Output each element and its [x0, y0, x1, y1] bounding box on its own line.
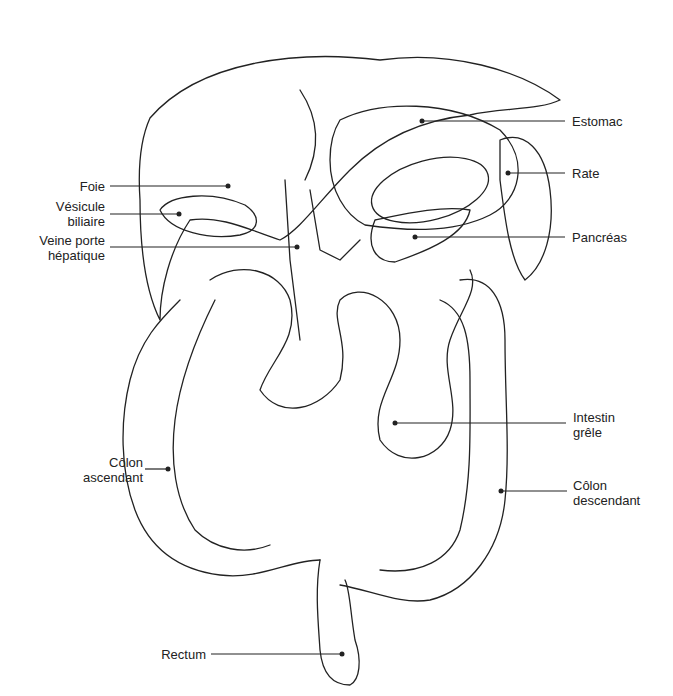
label-colon-descendant: Côlondescendant	[573, 478, 640, 508]
label-pancreas: Pancréas	[572, 230, 627, 245]
label-rate: Rate	[572, 166, 599, 181]
dot-pancreas	[413, 235, 418, 240]
small-intestine-shape	[210, 270, 473, 459]
dot-veine	[295, 245, 300, 250]
pancreas-shape	[371, 209, 470, 262]
liver-shape	[139, 57, 560, 320]
label-colon-ascendant: Côlonascendant	[83, 455, 143, 485]
label-vesicule-biliaire: Vésiculebiliaire	[56, 199, 105, 229]
dot-estomac	[420, 119, 425, 124]
dot-colon-desc	[499, 489, 504, 494]
spleen-shape	[500, 137, 551, 280]
label-estomac: Estomac	[572, 114, 623, 129]
descending-colon-shape	[340, 279, 507, 601]
digestive-system-illustration	[0, 0, 673, 696]
label-foie: Foie	[80, 179, 105, 194]
dot-colon-asc	[166, 467, 171, 472]
dot-foie	[226, 184, 231, 189]
dot-rectum	[340, 652, 345, 657]
dot-rate	[506, 171, 511, 176]
ascending-colon-shape	[123, 300, 320, 576]
gallbladder-shape	[160, 196, 256, 236]
label-veine-porte-hepatique: Veine portehépatique	[39, 233, 105, 263]
rectum-shape	[317, 560, 359, 685]
dot-vesicule	[177, 212, 182, 217]
dot-intestin	[393, 421, 398, 426]
label-intestin-grele: Intestingrêle	[573, 410, 615, 440]
label-rectum: Rectum	[161, 647, 206, 662]
